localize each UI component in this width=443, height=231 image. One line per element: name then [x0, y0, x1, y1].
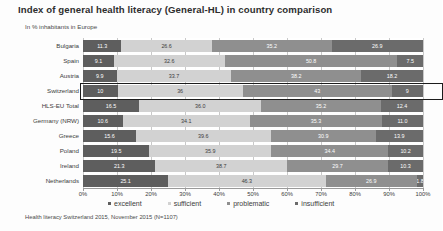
chart-row: Ireland21.338.729.710.3 — [83, 158, 423, 173]
chart-subtitle: In % inhabitants in Europe — [25, 23, 97, 30]
bar-segment-excellent: 10 — [83, 85, 118, 97]
stacked-bar: 9.933.738.218.2 — [83, 70, 423, 82]
bar-segment-excellent: 9.1 — [83, 55, 114, 67]
legend-item-problematic[interactable]: problematic — [227, 200, 269, 207]
bar-segment-sufficient: 26.6 — [121, 40, 211, 52]
chart-row: Netherlands25.146.326.91.8 — [83, 173, 423, 188]
stacked-bar: 16.536.035.212.4 — [83, 100, 423, 112]
chart-row: HLS-EU Total16.536.035.212.4 — [83, 98, 423, 113]
axis-tick-label: 40% — [213, 191, 225, 197]
bar-segment-insufficient: 12.4 — [381, 100, 423, 112]
gridline — [423, 38, 424, 188]
chart-row: Switzerland1036439 — [83, 83, 423, 98]
bar-segment-insufficient: 10.3 — [388, 160, 423, 172]
bar-segment-sufficient: 35.9 — [149, 145, 271, 157]
bar-segment-problematic: 35.2 — [212, 40, 332, 52]
bar-segment-insufficient: 26.9 — [332, 40, 423, 52]
bar-rows: Bulgaria11.326.635.226.9Spain9.132.650.8… — [83, 38, 423, 188]
legend-item-sufficient[interactable]: sufficient — [168, 200, 202, 207]
legend-item-excellent[interactable]: excellent — [108, 200, 142, 207]
bar-segment-insufficient: 7.5 — [397, 55, 423, 67]
bar-segment-sufficient: 39.6 — [136, 130, 271, 142]
axis-tick-label: 20% — [145, 191, 157, 197]
row-label: Greece — [1, 132, 79, 139]
axis-tick-label: 30% — [179, 191, 191, 197]
row-label: Spain — [1, 57, 79, 64]
row-label: Austria — [1, 72, 79, 79]
bar-segment-insufficient: 10.2 — [388, 145, 423, 157]
legend-item-insufficient[interactable]: insufficient — [295, 200, 334, 207]
legend-label: problematic — [233, 200, 269, 207]
bar-segment-problematic: 34.4 — [271, 145, 388, 157]
bar-segment-sufficient: 38.7 — [155, 160, 287, 172]
plot-area: Bulgaria11.326.635.226.9Spain9.132.650.8… — [83, 38, 423, 188]
axis-tick-label: 70% — [315, 191, 327, 197]
axis-tick-label: 100% — [416, 191, 431, 197]
stacked-bar: 21.338.729.710.3 — [83, 160, 423, 172]
x-axis: 0%10%20%30%40%50%60%70%80%90%100% — [83, 188, 423, 200]
stacked-bar: 10.634.135.311.0 — [83, 115, 423, 127]
stacked-bar: 25.146.326.91.8 — [83, 175, 423, 187]
legend-swatch-icon — [295, 202, 298, 205]
row-label: Poland — [1, 147, 79, 154]
stacked-bar: 15.639.630.913.9 — [83, 130, 423, 142]
bar-segment-problematic: 29.7 — [287, 160, 388, 172]
axis-tick-label: 50% — [247, 191, 259, 197]
bar-segment-sufficient: 34.1 — [123, 115, 250, 127]
legend-swatch-icon — [168, 202, 171, 205]
legend-swatch-icon — [108, 202, 111, 205]
stacked-bar: 1036439 — [83, 85, 423, 97]
bar-segment-sufficient: 32.6 — [114, 55, 225, 67]
legend-label: sufficient — [174, 200, 202, 207]
chart-row: Bulgaria11.326.635.226.9 — [83, 38, 423, 53]
bar-segment-problematic: 43 — [243, 85, 392, 97]
bar-segment-insufficient: 1.8 — [417, 175, 423, 187]
chart-row: Spain9.132.650.87.5 — [83, 53, 423, 68]
row-label: Netherlands — [1, 177, 79, 184]
bar-segment-insufficient: 18.2 — [361, 70, 423, 82]
bar-segment-excellent: 16.5 — [83, 100, 139, 112]
stacked-bar: 9.132.650.87.5 — [83, 55, 423, 67]
bar-segment-excellent: 21.3 — [83, 160, 155, 172]
chart-row: Greece15.639.630.913.9 — [83, 128, 423, 143]
axis-tick-label: 60% — [281, 191, 293, 197]
chart-row: Austria9.933.738.218.2 — [83, 68, 423, 83]
bar-segment-problematic: 35.3 — [250, 115, 382, 127]
bar-segment-problematic: 35.2 — [261, 100, 381, 112]
bar-segment-insufficient: 11.0 — [382, 115, 423, 127]
bar-segment-sufficient: 33.7 — [117, 70, 232, 82]
row-label: Ireland — [1, 162, 79, 169]
axis-tick-label: 10% — [111, 191, 123, 197]
source-note: Health literacy Switzerland 2015, Novemb… — [25, 214, 178, 220]
chart-row: Poland19.535.934.410.2 — [83, 143, 423, 158]
bar-segment-problematic: 38.2 — [231, 70, 361, 82]
axis-tick-label: 0% — [79, 191, 87, 197]
bar-segment-problematic: 26.9 — [326, 175, 417, 187]
page-title: Index of general health literacy (Genera… — [18, 4, 332, 15]
chart-legend: excellentsufficientproblematicinsufficie… — [108, 200, 334, 207]
legend-label: excellent — [114, 200, 142, 207]
chart-row: Germany (NRW)10.634.135.311.0 — [83, 113, 423, 128]
bar-segment-sufficient: 46.3 — [168, 175, 325, 187]
stacked-bar: 19.535.934.410.2 — [83, 145, 423, 157]
bar-segment-insufficient: 13.9 — [376, 130, 423, 142]
row-label: HLS-EU Total — [1, 102, 79, 109]
legend-label: insufficient — [301, 200, 334, 207]
bar-segment-problematic: 30.9 — [271, 130, 376, 142]
legend-swatch-icon — [227, 202, 230, 205]
bar-segment-excellent: 15.6 — [83, 130, 136, 142]
bar-segment-insufficient: 9 — [392, 85, 423, 97]
bar-segment-excellent: 25.1 — [83, 175, 168, 187]
row-label: Switzerland — [1, 87, 79, 94]
bar-segment-excellent: 10.6 — [83, 115, 123, 127]
row-label: Germany (NRW) — [1, 117, 79, 124]
axis-tick-label: 80% — [349, 191, 361, 197]
axis-tick-label: 90% — [383, 191, 395, 197]
bar-segment-excellent: 9.9 — [83, 70, 117, 82]
bar-segment-excellent: 11.3 — [83, 40, 121, 52]
stacked-bar: 11.326.635.226.9 — [83, 40, 423, 52]
bar-segment-problematic: 50.8 — [225, 55, 398, 67]
row-label: Bulgaria — [1, 42, 79, 49]
bar-segment-sufficient: 36.0 — [139, 100, 261, 112]
